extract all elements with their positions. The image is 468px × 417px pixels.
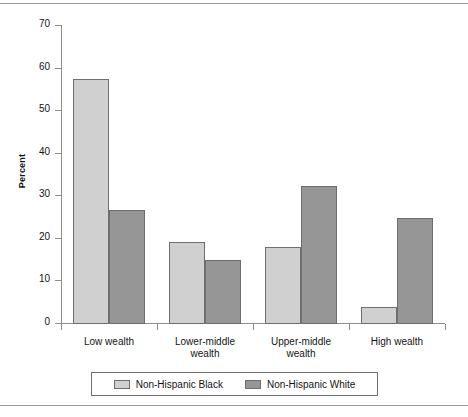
chart-page: Percent 010203040506070 Low wealthLower-…	[0, 0, 468, 417]
category-label-line: High wealth	[339, 336, 455, 348]
x-axis-tick	[253, 324, 254, 330]
x-axis-tick	[157, 324, 158, 330]
bar	[361, 307, 397, 324]
bar	[109, 210, 145, 324]
x-axis-category-label: High wealth	[339, 336, 455, 348]
bar	[397, 218, 433, 324]
legend-swatch-non-hispanic-white	[245, 380, 261, 389]
bar-chart: Percent 010203040506070 Low wealthLower-…	[0, 0, 468, 417]
bar	[265, 247, 301, 324]
chart-legend: Non-Hispanic Black Non-Hispanic White	[91, 372, 378, 396]
bars-layer	[0, 0, 468, 324]
legend-label: Non-Hispanic White	[267, 379, 355, 390]
x-axis-tick	[61, 324, 62, 330]
bar	[301, 186, 337, 324]
category-label-line: wealth	[243, 348, 359, 360]
bar	[205, 260, 241, 324]
legend-item: Non-Hispanic Black	[114, 379, 223, 390]
legend-item: Non-Hispanic White	[245, 379, 355, 390]
legend-label: Non-Hispanic Black	[136, 379, 223, 390]
bar	[73, 79, 109, 324]
legend-swatch-non-hispanic-black	[114, 380, 130, 389]
bar	[169, 242, 205, 324]
x-axis-tick	[349, 324, 350, 330]
x-axis-tick	[445, 324, 446, 330]
